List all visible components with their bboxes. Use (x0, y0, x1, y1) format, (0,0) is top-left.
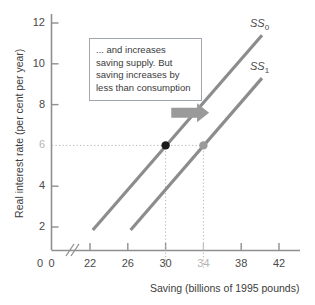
y-tick-label-12: 12 (25, 17, 45, 28)
y-tick-label-2: 2 (25, 221, 45, 232)
x-tick-label-34: 34 (193, 258, 213, 269)
x-tick-label-38: 38 (231, 258, 251, 269)
x-tick-label-42: 42 (269, 258, 289, 269)
equilibrium-markers (161, 141, 207, 149)
curve-label-text: SS (250, 60, 265, 72)
marker-equilibrium-initial (161, 141, 169, 149)
y-tick-label-10: 10 (25, 58, 45, 69)
curve-label-subscript: 1 (265, 66, 269, 75)
y-tick-label-6: 6 (25, 139, 45, 150)
annotation-callout: ... and increases saving supply. But sav… (89, 38, 202, 101)
x-tick-label-22: 22 (80, 258, 100, 269)
y-axis-ticks (52, 23, 59, 227)
curve-label-SS1: SS1 (250, 61, 269, 75)
y-tick-label-8: 8 (25, 99, 45, 110)
curve-label-SS0: SS0 (250, 18, 269, 32)
x-tick-label-26: 26 (118, 258, 138, 269)
y-tick-label-4: 4 (25, 180, 45, 191)
marker-equilibrium-new (199, 141, 207, 149)
saving-supply-chart: 0222630343842 121086420 SS0SS1 Real inte… (0, 0, 315, 305)
x-axis-ticks (90, 243, 279, 250)
x-tick-label-30: 30 (156, 258, 176, 269)
curve-label-text: SS (250, 17, 265, 29)
x-axis-title: Saving (billions of 1995 pounds) (150, 283, 299, 294)
curve-label-subscript: 0 (265, 23, 269, 32)
origin-label: 0 (33, 258, 47, 269)
y-axis-title: Real interest rate (per cent per year) (14, 48, 25, 218)
